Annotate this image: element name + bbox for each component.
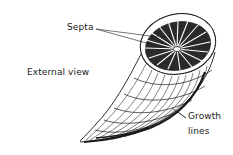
label-septa: Septa <box>67 23 94 32</box>
growth-lines <box>95 70 212 132</box>
label-external-view: External view <box>27 68 89 77</box>
label-lines: lines <box>188 127 209 136</box>
label-growth: Growth <box>188 112 221 121</box>
